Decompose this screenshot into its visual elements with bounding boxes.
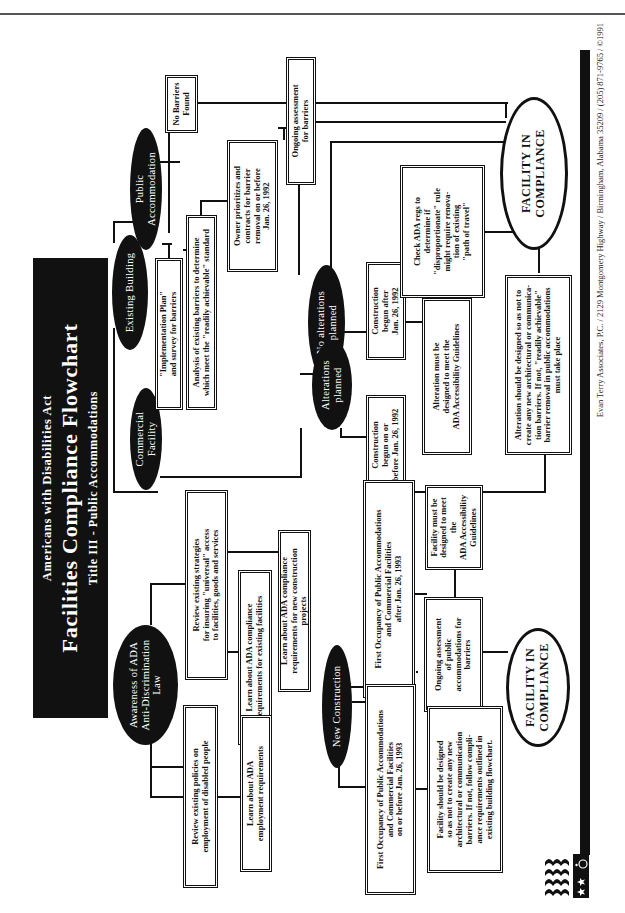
footer-credit: Evan Terry Associates, P.C. / 2129 Montg… xyxy=(595,23,605,893)
connector xyxy=(505,102,507,118)
public-accommodation-oval: Public Accommodation xyxy=(130,128,162,250)
flag-accessibility-logo-icon xyxy=(543,852,591,898)
facility-must-box: Facility must be designed to meet the AD… xyxy=(425,485,483,570)
alterations-planned-oval: Alterations planned xyxy=(312,340,352,430)
title-supertitle: Americans with Disabilities Act xyxy=(40,395,55,581)
footer-bar xyxy=(580,50,590,855)
learn-employment-box: Learn about ADA employment requirements xyxy=(240,715,272,872)
learn-new-construction-box: Learn about ADA compliance requirements … xyxy=(278,530,311,692)
connector xyxy=(150,583,186,585)
connector xyxy=(113,223,115,243)
connector xyxy=(200,200,227,202)
connector xyxy=(330,141,332,273)
connector xyxy=(150,796,183,798)
connector xyxy=(338,786,368,788)
facility-in-compliance-top: FACILITY IN COMPLIANCE xyxy=(500,97,568,250)
connector xyxy=(228,551,278,553)
awareness-oval: Awareness of ADA Anti-Discrimination Law xyxy=(113,625,178,745)
check-ada-regs-box: Check ADA regs to determine if "dispropo… xyxy=(400,165,485,298)
alteration-must-box: Alteration must be designed to meet the … xyxy=(422,298,472,455)
implementation-plan-box: "Implementation Plan" and survey for bar… xyxy=(155,258,183,410)
new-construction-oval: New Construction xyxy=(322,645,352,768)
connector xyxy=(228,651,238,653)
first-occupancy-before-box: First Occupancy of Public Accommodations… xyxy=(365,684,416,895)
connector xyxy=(150,585,152,625)
existing-building-oval: Existing Building xyxy=(112,235,148,350)
review-policies-box: Review existing policies on employment o… xyxy=(183,705,218,888)
connector xyxy=(340,436,368,438)
page-title: Facilities Compliance Flowchart xyxy=(57,323,83,652)
ongoing-public-accommodations-box: Ongoing assessment of public accommodati… xyxy=(424,597,483,712)
connector xyxy=(218,796,240,798)
connector xyxy=(416,671,418,673)
connector xyxy=(483,651,508,653)
no-barriers-found-box: No Barriers Found xyxy=(165,75,198,133)
connector xyxy=(113,221,133,223)
connector xyxy=(415,593,427,595)
connector xyxy=(168,243,170,258)
ongoing-assessment-box: Ongoing assessment for barriers xyxy=(286,57,316,185)
connector xyxy=(200,200,202,215)
owner-prioritizes-box: Owner prioritizes and contracts for barr… xyxy=(227,140,278,272)
connector xyxy=(300,428,302,478)
first-occupancy-after-box: First Occupancy of Public Accommodations… xyxy=(363,480,415,698)
connector xyxy=(168,133,170,233)
connector xyxy=(538,271,540,273)
connector xyxy=(113,348,115,493)
connector xyxy=(113,491,158,493)
title-block: Americans with Disabilities Act Faciliti… xyxy=(33,258,108,718)
connector xyxy=(160,476,302,478)
connector xyxy=(330,141,505,143)
connector xyxy=(298,183,300,275)
connector xyxy=(338,768,340,788)
connector xyxy=(162,243,172,245)
alteration-should-box: Alteration should be designed so as not … xyxy=(505,275,572,455)
review-strategies-box: Review existing strategies for insuring … xyxy=(185,490,228,680)
connector xyxy=(454,569,456,597)
flowchart-canvas: Americans with Disabilities Act Faciliti… xyxy=(0,0,625,913)
title-subtitle: Title III - Public Accommodations xyxy=(86,391,101,585)
facility-should-box: Facility should be designed so as not to… xyxy=(427,706,503,873)
connector xyxy=(544,453,546,493)
analysis-box: Analysis of existing barriers to determi… xyxy=(186,215,217,410)
connector xyxy=(150,743,152,798)
facility-in-compliance-bottom: FACILITY IN COMPLIANCE xyxy=(506,628,570,747)
connector xyxy=(198,102,508,104)
connector xyxy=(316,121,506,123)
connector xyxy=(160,161,180,163)
